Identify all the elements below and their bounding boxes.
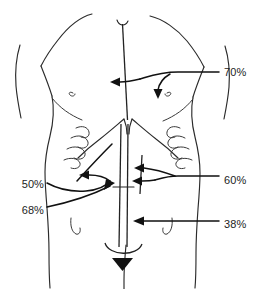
left-nipple-marking [69, 92, 75, 96]
leader-38-arrowhead [133, 217, 144, 226]
right-shoulder-contour [150, 16, 204, 67]
left-costal-margin-ribs [64, 127, 89, 169]
left-pectoral-fold [52, 98, 82, 120]
anatomy-group [16, 14, 230, 289]
umbilicus-arc [105, 243, 142, 253]
xiphoid-notch-right [129, 119, 132, 134]
leader-60-branch-upper [144, 168, 175, 176]
left-arm-inner-edge [16, 45, 21, 118]
anatomical-figure: 70% 60% 38% [0, 0, 261, 289]
leader-60-arrowhead-lower [132, 177, 142, 186]
leader-60-main [155, 176, 219, 180]
lower-midline-incision-right [127, 124, 128, 247]
leader-70-arrowhead-chest [154, 89, 163, 99]
leader-68-arrowhead [104, 179, 115, 190]
right-torso-outline [192, 97, 200, 288]
annotation-70[interactable]: 70% [110, 66, 246, 99]
leader-60-branch-lower [142, 180, 155, 181]
annotation-60[interactable]: 60% [132, 164, 246, 187]
left-hip-crease [71, 218, 81, 234]
annotation-60-label: 60% [224, 174, 246, 186]
leader-70-main [140, 72, 219, 79]
annotation-38[interactable]: 38% [133, 217, 246, 231]
annotation-70-label: 70% [224, 66, 246, 78]
left-torso-outline [45, 96, 53, 288]
leader-70-branch-midline [120, 79, 140, 82]
upper-midline-incision [123, 24, 128, 120]
leader-70-branch-chest [158, 74, 170, 90]
right-pectoral-fold [163, 99, 193, 121]
leader-70-arrowhead-midline [110, 78, 120, 87]
annotation-38-label: 38% [224, 218, 246, 230]
lower-midline-incision-left [119, 124, 121, 247]
left-shoulder-contour [41, 14, 92, 66]
leader-60-arrowhead-upper [134, 164, 144, 173]
diagram-canvas: 70% 60% 38% [0, 0, 261, 289]
annotation-68-label: 68% [22, 204, 44, 216]
left-arm-outer-edge [41, 66, 52, 96]
xiphoid-notch [124, 119, 127, 134]
pubic-direction-arrowhead [112, 258, 133, 271]
annotation-50-label: 50% [22, 178, 44, 190]
annotation-group: 70% 60% 38% [22, 66, 247, 230]
right-paramedian-incision [140, 155, 142, 194]
leader-68-main [47, 186, 110, 207]
right-nipple-marking [165, 92, 171, 96]
annotation-50[interactable]: 50% [22, 144, 112, 191]
right-arm-outer-edge [224, 46, 229, 119]
right-costal-margin-ribs [167, 127, 192, 169]
